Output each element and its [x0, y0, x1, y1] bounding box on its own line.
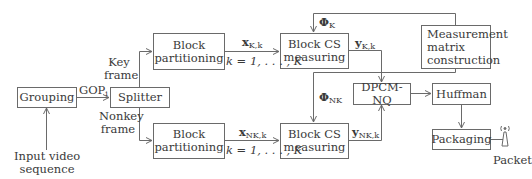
phi-key-sub: K: [329, 21, 335, 30]
x-nonkey-text: x: [239, 125, 246, 139]
range-key-label: k = 1, . . . , K: [226, 55, 302, 68]
splitter-label: Splitter: [118, 91, 162, 104]
grouping-label: Grouping: [20, 91, 75, 104]
y-nonkey-label: yNK,k: [352, 126, 379, 142]
antenna-icon: [501, 126, 510, 146]
phi-nonkey-sub: NK: [329, 96, 342, 105]
range-nonkey-label: k = 1, . . . , K: [226, 144, 302, 157]
y-key-sub: K,k: [362, 42, 375, 51]
huffman-box: Huffman: [432, 83, 491, 105]
block-partitioning-nonkey-line2: partitioning: [154, 141, 223, 154]
grouping-box: Grouping: [17, 87, 77, 108]
block-partitioning-key-line1: Block: [173, 39, 205, 52]
y-key-label: yK,k: [355, 37, 375, 53]
packet-label: Packet: [493, 154, 532, 167]
phi-nonkey-text: Φ: [319, 90, 329, 104]
x-key-sub: K,k: [249, 41, 262, 50]
gop-label: GOPi: [79, 84, 108, 100]
measurement-matrix-line3: construction: [427, 54, 500, 67]
block-partitioning-key-line2: partitioning: [154, 52, 223, 65]
block-partitioning-key-box: Block partitioning: [153, 33, 225, 70]
y-nonkey-sub: NK,k: [359, 131, 379, 140]
dpcm-nq-box: DPCM-NQ: [353, 83, 411, 105]
key-frame-line2: frame: [104, 69, 134, 82]
splitter-box: Splitter: [110, 87, 170, 108]
phi-key-label: ΦK: [319, 16, 335, 32]
nonkey-frame-line2: frame: [99, 123, 137, 136]
gop-sub: i: [105, 89, 108, 98]
y-key-text: y: [355, 36, 362, 50]
block-partitioning-nonkey-box: Block partitioning: [153, 123, 225, 159]
x-nonkey-sub: NK,k: [246, 131, 266, 140]
huffman-label: Huffman: [436, 88, 487, 101]
nonkey-frame-label: Nonkey frame: [99, 110, 137, 136]
packaging-box: Packaging: [432, 129, 491, 150]
phi-key-text: Φ: [319, 15, 329, 29]
y-nonkey-text: y: [352, 125, 359, 139]
input-video-label: Input video sequence: [14, 150, 80, 176]
gop-text: GOP: [79, 83, 105, 97]
key-frame-label: Key frame: [104, 56, 134, 82]
measurement-matrix-line2: matrix: [427, 41, 465, 54]
input-line2: sequence: [14, 163, 80, 176]
measurement-matrix-line1: Measurement: [427, 28, 508, 41]
measurement-matrix-box: Measurement matrix construction: [421, 25, 491, 69]
x-nonkey-label: xNK,k: [239, 126, 266, 142]
dpcm-nq-label: DPCM-NQ: [354, 81, 410, 107]
packaging-label: Packaging: [431, 133, 491, 146]
phi-nonkey-label: ΦNK: [319, 91, 342, 107]
x-key-text: x: [242, 35, 249, 49]
x-key-label: xK,k: [242, 36, 262, 52]
